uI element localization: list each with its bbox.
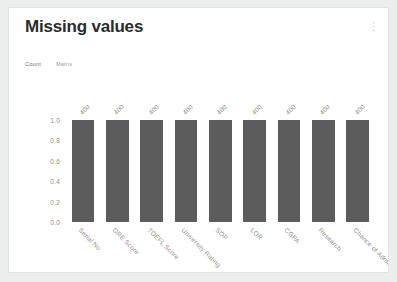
- x-axis-category-label: LOR: [249, 226, 264, 241]
- bar-group: 400SOP: [203, 120, 237, 222]
- bar[interactable]: [312, 120, 335, 222]
- x-axis-category-label: TOEFL Score: [146, 226, 180, 260]
- y-axis-tick: 0.0: [50, 219, 60, 226]
- missing-values-bar-chart: 1.00.80.60.40.20.0400Serial No.400GRE Sc…: [9, 72, 389, 273]
- bar-value-label: 400: [113, 103, 126, 116]
- bar-group: 400Chance of Admit: [341, 120, 375, 222]
- more-options-icon[interactable]: [368, 21, 379, 32]
- bar-group: 400CGPA: [272, 120, 306, 222]
- bar-value-label: 400: [250, 103, 263, 116]
- bar-group: 400LOR: [238, 120, 272, 222]
- bar-value-label: 400: [319, 103, 332, 116]
- bar[interactable]: [106, 120, 129, 222]
- y-axis-tick: 0.6: [50, 157, 60, 164]
- x-axis-category-label: Serial No.: [77, 226, 104, 253]
- x-axis-category-label: SOP: [215, 226, 230, 241]
- bar-value-label: 400: [284, 103, 297, 116]
- bar-group: 400TOEFL Score: [135, 120, 169, 222]
- bar-group: 400Serial No.: [66, 120, 100, 222]
- x-axis-category-label: Chance of Admit: [352, 226, 389, 267]
- bar[interactable]: [175, 120, 198, 222]
- bar-group: 400University Rating: [169, 120, 203, 222]
- bar-group: 400Research: [306, 120, 340, 222]
- bar[interactable]: [72, 120, 95, 222]
- missing-values-card: Missing values Count Matrix 1.00.80.60.4…: [8, 7, 389, 273]
- bar-group: 400GRE Score: [100, 120, 134, 222]
- bar-value-label: 400: [147, 103, 160, 116]
- chart-view-tabs: Count Matrix: [25, 58, 72, 71]
- y-axis-tick: 0.2: [50, 198, 60, 205]
- x-axis-category-label: GRE Score: [112, 226, 141, 255]
- bar-value-label: 400: [78, 103, 91, 116]
- bar-value-label: 400: [216, 103, 229, 116]
- tab-matrix[interactable]: Matrix: [56, 62, 72, 68]
- plot-area: 1.00.80.60.40.20.0400Serial No.400GRE Sc…: [66, 120, 375, 222]
- y-axis-tick: 1.0: [50, 117, 60, 124]
- y-axis-tick: 0.8: [50, 137, 60, 144]
- bar[interactable]: [243, 120, 266, 222]
- bar-value-label: 400: [353, 103, 366, 116]
- page-title: Missing values: [25, 17, 143, 37]
- bar[interactable]: [346, 120, 369, 222]
- bar[interactable]: [209, 120, 232, 222]
- bar[interactable]: [278, 120, 301, 222]
- x-axis-category-label: CGPA: [283, 226, 301, 244]
- bar-value-label: 400: [181, 103, 194, 116]
- y-axis-tick: 0.4: [50, 178, 60, 185]
- bar[interactable]: [140, 120, 163, 222]
- tab-count[interactable]: Count: [25, 62, 41, 68]
- x-axis-category-label: Research: [318, 226, 344, 252]
- card-header: Missing values: [9, 8, 388, 48]
